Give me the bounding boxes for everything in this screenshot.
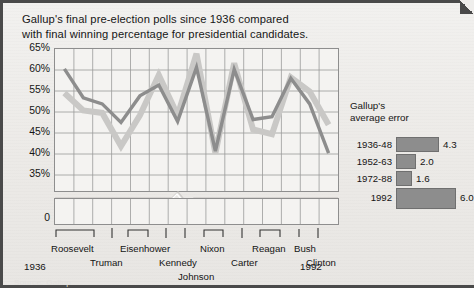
error-period-label: 1936-48 xyxy=(350,136,392,153)
frame-border-top xyxy=(0,0,474,3)
chart-figure: Gallup's final pre-election polls since … xyxy=(0,0,474,288)
frame-border-left xyxy=(0,0,3,288)
y-tick-65: 65% xyxy=(29,42,50,53)
error-row: 1936-48 4.3 xyxy=(350,136,470,153)
error-value: 4.3 xyxy=(443,136,457,153)
plot-svg xyxy=(55,49,338,191)
president-label-bush: Bush xyxy=(294,243,316,254)
president-label-johnson: Johnson xyxy=(178,271,214,282)
y-tick-60: 60% xyxy=(29,63,50,74)
president-label-roosevelt: Roosevelt xyxy=(51,243,94,254)
chart-title: Gallup's final pre-election polls since … xyxy=(22,12,352,41)
error-value: 1.6 xyxy=(416,170,430,187)
error-row: 1992 6.0 xyxy=(350,187,470,209)
president-axis: Roosevelt Truman Eisenhower Kennedy John… xyxy=(54,228,346,280)
error-value: 6.0 xyxy=(460,187,474,209)
average-error-title-line-2: average error xyxy=(350,112,470,124)
president-label-eisenhower: Eisenhower xyxy=(120,243,170,254)
error-row: 1972-88 1.6 xyxy=(350,170,470,187)
chart-title-line-1: Gallup's final pre-election polls since … xyxy=(22,12,352,27)
average-error-panel: Gallup's average error 1936-48 4.3 1952-… xyxy=(350,100,470,208)
average-error-rows: 1936-48 4.3 1952-63 2.0 1972-88 1.6 1992… xyxy=(350,136,470,209)
y-axis-labels: 65% 60% 55% 50% 45% 40% 35% 0 xyxy=(16,46,50,196)
president-label-nixon: Nixon xyxy=(200,243,225,254)
error-bar xyxy=(396,154,416,169)
error-bar xyxy=(396,171,412,186)
y-tick-45: 45% xyxy=(29,126,50,137)
error-bar xyxy=(396,137,439,152)
error-row: 1952-63 2.0 xyxy=(350,153,470,170)
error-bar xyxy=(396,188,456,209)
frame-corner-fold xyxy=(460,0,474,14)
y-tick-zero: 0 xyxy=(44,212,50,223)
y-tick-40: 40% xyxy=(29,147,50,158)
y-tick-35: 35% xyxy=(29,168,50,179)
president-label-carter: Carter xyxy=(231,257,258,268)
plot-area: 65% 60% 55% 50% 45% 40% 35% 0 xyxy=(16,46,346,226)
president-brackets xyxy=(54,228,346,242)
plot-grid-lower xyxy=(54,198,339,225)
chart-title-line-2: with final winning percentage for presid… xyxy=(22,27,352,42)
error-period-label: 1952-63 xyxy=(350,153,392,170)
error-period-label: 1972-88 xyxy=(350,170,392,187)
y-tick-55: 55% xyxy=(29,84,50,95)
y-tick-50: 50% xyxy=(29,105,50,116)
president-label-reagan: Reagan xyxy=(252,243,286,254)
average-error-title: Gallup's average error xyxy=(350,100,470,125)
x-axis-start-year: 1936 xyxy=(24,261,46,272)
source-note: Source: Gallup xyxy=(14,278,71,287)
x-axis-end-year: 1992 xyxy=(300,261,322,272)
president-label-kennedy: Kennedy xyxy=(159,257,197,268)
error-value: 2.0 xyxy=(420,153,434,170)
president-label-truman: Truman xyxy=(90,257,123,268)
error-period-label: 1992 xyxy=(350,187,392,209)
plot-grid xyxy=(54,48,339,192)
average-error-title-line-1: Gallup's xyxy=(350,100,470,112)
